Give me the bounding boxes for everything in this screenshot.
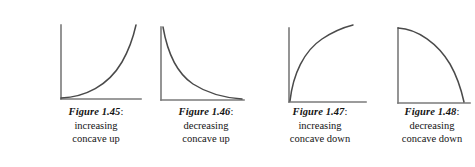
caption-title-line: Figure 1.48: [376,105,475,119]
figure-number-label: Figure 1.46 [179,106,231,117]
graph-svg [40,16,152,106]
figure-increasing-concave-down: Figure 1.47: increasing concave down [264,16,376,167]
caption-description-line-2: concave down [264,132,376,146]
caption-description-line-1: increasing [264,119,376,133]
curve-decreasing-concave-up [163,27,242,99]
figure-colon: : [344,106,347,117]
caption-description-line-2: concave down [376,132,475,146]
curve-increasing-concave-up [61,25,136,98]
plot-area [376,16,475,106]
figure-number-label: Figure 1.48 [405,106,457,117]
figure-number-label: Figure 1.45 [69,106,121,117]
caption-description-line-1: increasing [40,119,152,133]
figure-decreasing-concave-down: Figure 1.48: decreasing concave down [376,16,475,167]
caption-title-line: Figure 1.45: [40,105,152,119]
plot-area [264,16,376,106]
figure-increasing-concave-up: Figure 1.45: increasing concave up [40,16,152,167]
figure-caption: Figure 1.48: decreasing concave down [376,105,475,146]
caption-description-line-1: decreasing [150,119,262,133]
plot-area [150,16,262,106]
plot-area [40,16,152,106]
curve-decreasing-concave-down [398,28,464,102]
figure-colon: : [230,106,233,117]
figure-colon: : [456,106,459,117]
caption-description-line-1: decreasing [376,119,475,133]
figure-colon: : [120,106,123,117]
figure-caption: Figure 1.46: decreasing concave up [150,105,262,146]
graph-svg [376,16,475,106]
caption-description-line-2: concave up [40,132,152,146]
figure-caption: Figure 1.47: increasing concave down [264,105,376,146]
graph-svg [264,16,376,106]
figure-number-label: Figure 1.47 [293,106,345,117]
caption-title-line: Figure 1.47: [264,105,376,119]
caption-title-line: Figure 1.46: [150,105,262,119]
curve-increasing-concave-down [290,25,353,101]
figure-decreasing-concave-up: Figure 1.46: decreasing concave up [150,16,262,167]
figure-caption: Figure 1.45: increasing concave up [40,105,152,146]
caption-description-line-2: concave up [150,132,262,146]
graph-svg [150,16,262,106]
